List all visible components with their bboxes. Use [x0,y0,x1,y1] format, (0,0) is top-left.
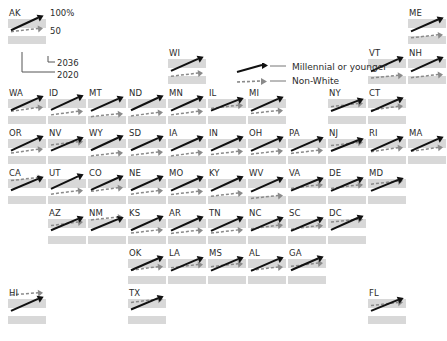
legend-dashed-arrow-icon [236,77,288,88]
chart-legend: Millennial or younger Non-White [236,60,411,88]
legend-label-millennial: Millennial or younger [292,62,387,72]
axis-reference-marks [0,0,447,341]
axis-label-x-start: 2020 [57,70,79,80]
axis-label-y-mid: 50 [50,26,61,36]
axis-label-x-end: 2036 [57,58,79,68]
legend-solid-arrow-icon [236,63,288,74]
axis-label-y-top: 100% [50,8,74,18]
legend-label-nonwhite: Non-White [292,76,339,86]
